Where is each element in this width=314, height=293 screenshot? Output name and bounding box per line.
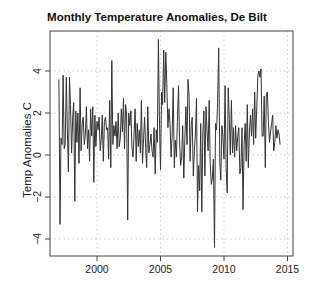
x-tick-label: 2015 xyxy=(276,263,300,275)
y-tick-label: 0 xyxy=(31,152,43,158)
x-axis: 2000200520102015 xyxy=(85,256,299,275)
y-tick-label: −2 xyxy=(31,191,43,203)
x-tick-label: 2010 xyxy=(212,263,236,275)
line-chart: 2000200520102015 −4−2024 xyxy=(0,0,314,293)
y-tick-label: 4 xyxy=(31,68,43,74)
data-line xyxy=(59,40,280,248)
y-tick-label: −4 xyxy=(31,233,43,245)
y-axis: −4−2024 xyxy=(31,68,50,245)
x-tick-label: 2000 xyxy=(85,263,109,275)
x-tick-label: 2005 xyxy=(149,263,173,275)
y-tick-label: 2 xyxy=(31,110,43,116)
